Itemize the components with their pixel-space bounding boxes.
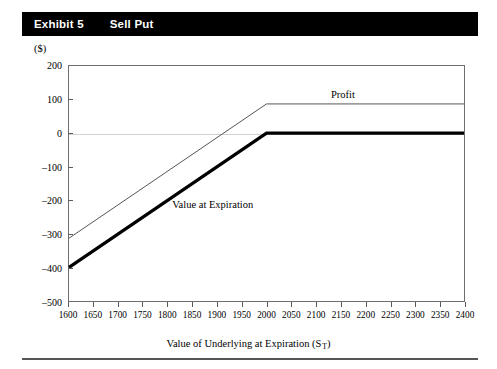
x-axis-tick-label: 2100: [307, 310, 326, 320]
x-axis-title-main: Value of Underlying at Expiration (S: [167, 338, 322, 349]
x-axis-tick-label: 1900: [208, 310, 227, 320]
y-axis-tick-label: –500: [42, 297, 62, 308]
y-axis-tick-mark: [68, 200, 73, 201]
y-axis-tick-label: –300: [42, 229, 62, 240]
x-axis-tick-label: 2150: [332, 310, 351, 320]
x-axis-tick-label: 1850: [183, 310, 202, 320]
y-axis-tick-mark: [68, 167, 73, 168]
x-axis-tick-label: 2300: [406, 310, 425, 320]
x-axis-title-subscript: T: [321, 342, 327, 351]
series-lines: [69, 66, 464, 301]
series-line-value-at-expiration: [69, 133, 464, 267]
figure-bottom-rule: [22, 358, 478, 360]
x-axis-tick-label: 2400: [456, 310, 475, 320]
series-label-profit: Profit: [331, 89, 355, 100]
y-axis-tick-mark: [68, 268, 73, 269]
x-axis-tick-label: 2000: [257, 310, 276, 320]
x-axis-title: Value of Underlying at Expiration (ST): [0, 338, 497, 349]
y-axis-tick-label: –400: [42, 263, 62, 274]
series-line-profit: [69, 104, 464, 238]
plot-area: [68, 65, 465, 302]
x-axis-tick-label: 1650: [84, 310, 103, 320]
y-axis-tick-label: –100: [42, 161, 62, 172]
x-axis-tick-label: 1950: [232, 310, 251, 320]
y-axis-tick-mark: [68, 133, 73, 134]
x-axis-tick-mark: [465, 302, 466, 307]
y-axis-tick-mark: [68, 234, 73, 235]
y-axis-tick-labels: 2001000–100–200–300–400–500: [28, 65, 62, 302]
y-axis-tick-label: 200: [47, 60, 62, 71]
y-axis-tick-label: –200: [42, 195, 62, 206]
x-axis-tick-label: 1800: [158, 310, 177, 320]
x-axis-tick-label: 2200: [356, 310, 375, 320]
x-axis-tick-label: 1600: [59, 310, 78, 320]
x-axis-tick-label: 1750: [133, 310, 152, 320]
x-axis-title-tail: ): [327, 338, 331, 349]
x-axis-tick-label: 2050: [282, 310, 301, 320]
exhibit-figure: Exhibit 5 Sell Put ($) 2001000–100–200–3…: [0, 0, 497, 369]
x-axis-tick-labels: 1600165017001750180018501900195020002050…: [68, 304, 465, 322]
y-axis-tick-label: 100: [47, 93, 62, 104]
x-axis-tick-label: 2350: [431, 310, 450, 320]
x-axis-tick-label: 1700: [108, 310, 127, 320]
y-axis-tick-mark: [68, 99, 73, 100]
x-axis-tick-label: 2250: [381, 310, 400, 320]
chart-canvas: 2001000–100–200–300–400–500 160016501700…: [0, 0, 497, 369]
series-label-value-at-expiration: Value at Expiration: [172, 199, 253, 210]
y-axis-tick-label: 0: [57, 127, 62, 138]
